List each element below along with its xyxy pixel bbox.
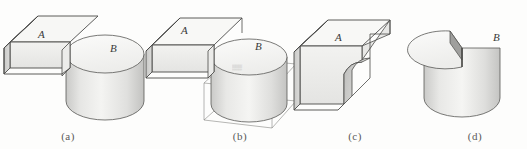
panel-b-label-b: B xyxy=(255,40,262,52)
panel-d: B xyxy=(408,31,500,117)
caption-d: (d) xyxy=(468,130,482,142)
panel-c-box-with-notch xyxy=(294,20,390,110)
panel-d-cylinder-with-wedge xyxy=(408,31,500,117)
panel-a-label-b: B xyxy=(110,42,117,54)
caption-c: (c) xyxy=(348,130,362,142)
cylinder-top xyxy=(211,39,287,75)
panel-b: A B xyxy=(146,18,296,128)
box-left-face xyxy=(294,46,300,110)
box-bottom-edge xyxy=(4,68,70,74)
panel-c-label-a: A xyxy=(334,31,342,43)
panel-d-label-b: B xyxy=(493,31,500,43)
panel-b-label-a: A xyxy=(180,24,188,36)
panel-a-label-a: A xyxy=(37,28,45,40)
box-bottom-edge xyxy=(146,72,214,78)
scan-smudge-mark: ▒▒▒ xyxy=(232,64,242,70)
boolean-operations-figure: A B xyxy=(0,0,527,149)
caption-a: (a) xyxy=(61,130,75,142)
box-right-flank xyxy=(208,45,214,78)
box-bottom-edge xyxy=(294,104,344,110)
cylinder-top xyxy=(66,35,144,73)
figure-canvas: A B xyxy=(0,0,527,149)
panel-a: A B xyxy=(4,16,144,120)
box-front-face xyxy=(152,45,214,72)
caption-b: (b) xyxy=(233,130,247,142)
panel-b-cylinder-b xyxy=(211,39,287,122)
panel-c: A xyxy=(294,20,390,110)
box-front-face xyxy=(10,42,70,68)
panel-a-cylinder-b xyxy=(66,35,144,120)
